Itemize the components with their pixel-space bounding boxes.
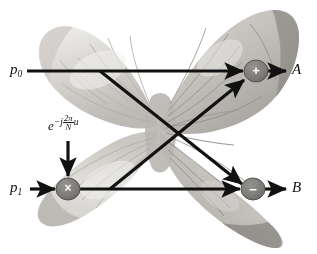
wing-edge-shading-lower-right — [222, 222, 282, 248]
twiddle-fraction: 2πN — [63, 114, 74, 132]
add-node[interactable] — [244, 60, 268, 82]
input-p1-base: p — [10, 179, 18, 195]
butterfly-diagram-figure: p0 p1 A B e−j2πNu × + − — [0, 0, 317, 254]
output-label-a: A — [292, 62, 301, 77]
input-label-p0: p0 — [10, 62, 22, 79]
output-label-b: B — [292, 180, 301, 195]
input-p1-subscript: 1 — [18, 187, 23, 197]
twiddle-power-var: u — [74, 117, 79, 127]
input-p0-base: p — [10, 61, 18, 77]
input-label-p1: p1 — [10, 180, 22, 197]
twiddle-factor-label: e−j2πNu — [48, 119, 78, 137]
twiddle-denominator: N — [63, 123, 74, 132]
multiply-node[interactable] — [56, 178, 80, 200]
input-p0-subscript: 0 — [18, 69, 23, 79]
subtract-node[interactable] — [241, 178, 265, 200]
